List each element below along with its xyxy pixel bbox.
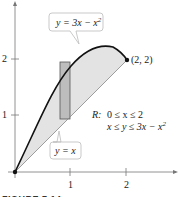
svg-text:0 ≤ x ≤ 2: 0 ≤ x ≤ 2 (107, 109, 143, 120)
svg-text:R:: R: (91, 109, 101, 120)
x-axis-arrow-icon (173, 170, 178, 174)
representative-rectangle (60, 62, 70, 119)
figure-caption: FIGURE 7.14 (2, 194, 62, 197)
point-label-2-2: (2, 2) (131, 54, 153, 66)
tick-label-y1: 1 (2, 109, 7, 120)
tick-label-y2: 2 (2, 53, 7, 64)
point-2-2 (125, 58, 129, 62)
tick-label-x1: 1 (68, 179, 73, 190)
point-origin (13, 170, 17, 174)
svg-text:x ≤ y ≤ 3x − x2: x ≤ y ≤ 3x − x2 (106, 120, 166, 132)
curve-callout: y = 3x − x2 (49, 13, 103, 44)
svg-text:y = x: y = x (54, 145, 76, 156)
region-description: R: 0 ≤ x ≤ 2 x ≤ y ≤ 3x − x2 (91, 109, 166, 132)
figure: 1 2 1 2 (2, 2) y = 3x − x2 y = x R: 0 ≤ … (0, 0, 179, 197)
y-axis-arrow-icon (13, 1, 17, 6)
svg-text:y = 3x − x2: y = 3x − x2 (55, 16, 102, 28)
line-callout: y = x (50, 131, 81, 159)
tick-label-x2: 2 (124, 179, 129, 190)
